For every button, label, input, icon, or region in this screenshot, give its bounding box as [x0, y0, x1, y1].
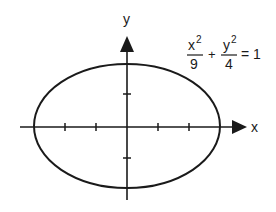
x-axis-arrow-icon: [232, 120, 247, 134]
y-axis-label: y: [123, 11, 130, 27]
eq-term2-numerator: y: [223, 37, 230, 53]
eq-plus: +: [208, 47, 216, 62]
y-axis-arrow-icon: [120, 36, 134, 52]
ellipse-diagram: x y x 2 9 + y 2 4 = 1: [0, 0, 276, 212]
x-axis-label: x: [251, 119, 258, 135]
eq-term1-numerator: x: [188, 37, 195, 53]
eq-term2-denominator: 4: [225, 56, 233, 72]
ellipse-equation: x 2 9 + y 2 4 = 1: [187, 34, 261, 72]
eq-term1-denominator: 9: [190, 56, 198, 72]
eq-equals-one: = 1: [241, 46, 261, 62]
eq-term2-exponent: 2: [231, 34, 237, 45]
eq-term1-exponent: 2: [196, 34, 202, 45]
